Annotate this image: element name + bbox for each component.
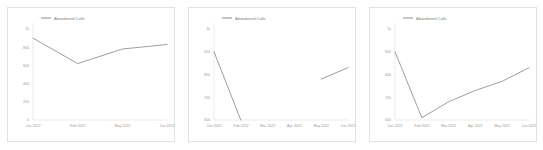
x-tick-label: Jun 2022 (160, 124, 175, 128)
y-tick-label: 800 (204, 73, 210, 77)
y-tick-label: 800 (385, 73, 391, 77)
y-tick-label: 1k (206, 27, 210, 31)
series-line-abandoned-calls (214, 52, 241, 120)
line-chart-2[interactable]: 6007008009001kJan 2022Feb 2022Mar 2022Ap… (188, 7, 356, 142)
line-chart-3[interactable]: 6007008009001kJan 2022Feb 2022Mar 2022Ap… (369, 7, 537, 142)
y-tick-label: 0 (27, 118, 29, 122)
x-tick-label: Jan 2022 (207, 124, 222, 128)
x-tick-label: Feb 2022 (70, 124, 85, 128)
y-tick-label: 700 (385, 96, 391, 100)
x-tick-label: Mar 2022 (260, 124, 275, 128)
y-tick-label: 600 (23, 64, 29, 68)
y-tick-label: 1k (25, 27, 29, 31)
plot-area-3[interactable]: 6007008009001kJan 2022Feb 2022Mar 2022Ap… (369, 7, 537, 142)
y-tick-label: 400 (23, 82, 29, 86)
x-tick-label: May 2022 (313, 124, 329, 128)
x-tick-label: Feb 2022 (233, 124, 248, 128)
y-tick-label: 600 (204, 118, 210, 122)
chart-panel-group: 02004006008001kJan 2022Feb 2022May 2022J… (0, 0, 543, 150)
y-tick-label: 900 (385, 50, 391, 54)
y-tick-label: 800 (23, 46, 29, 50)
y-tick-label: 600 (385, 118, 391, 122)
x-tick-label: Apr 2022 (468, 124, 483, 128)
y-tick-label: 1k (387, 27, 391, 31)
line-chart-1[interactable]: 02004006008001kJan 2022Feb 2022May 2022J… (7, 7, 175, 142)
chart-panel-3: 6007008009001kJan 2022Feb 2022Mar 2022Ap… (362, 0, 543, 150)
x-tick-label: Jan 2022 (26, 124, 41, 128)
x-tick-label: Feb 2022 (414, 124, 429, 128)
x-tick-label: Jun 2022 (522, 124, 537, 128)
series-line-abandoned-calls (33, 38, 167, 63)
y-tick-label: 200 (23, 100, 29, 104)
x-tick-label: May 2022 (494, 124, 510, 128)
chart-panel-2: 6007008009001kJan 2022Feb 2022Mar 2022Ap… (181, 0, 362, 150)
y-tick-label: 900 (204, 50, 210, 54)
plot-area-1[interactable]: 02004006008001kJan 2022Feb 2022May 2022J… (7, 7, 175, 142)
x-tick-label: Jan 2022 (388, 124, 403, 128)
x-tick-label: Jun 2022 (341, 124, 356, 128)
series-line-abandoned-calls (321, 68, 348, 79)
x-tick-label: Apr 2022 (287, 124, 302, 128)
plot-area-2[interactable]: 6007008009001kJan 2022Feb 2022Mar 2022Ap… (188, 7, 356, 142)
x-tick-label: May 2022 (114, 124, 130, 128)
series-line-abandoned-calls (395, 52, 529, 118)
legend-label: Abandoned Calls (54, 16, 84, 21)
legend-label: Abandoned Calls (416, 16, 446, 21)
legend-label: Abandoned Calls (235, 16, 265, 21)
y-tick-label: 700 (204, 96, 210, 100)
chart-panel-1: 02004006008001kJan 2022Feb 2022May 2022J… (0, 0, 181, 150)
x-tick-label: Mar 2022 (441, 124, 456, 128)
